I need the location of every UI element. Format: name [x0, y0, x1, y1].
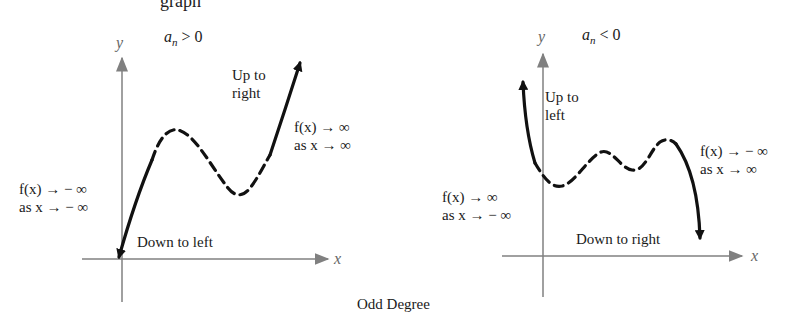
right-y-axis-label: y [538, 28, 545, 46]
left-right-limit-label: f(x) → ∞ as x → ∞ [294, 118, 351, 154]
left-curve [119, 63, 300, 257]
right-x-axis-label: x [751, 247, 758, 265]
right-left-limit-label: f(x) → ∞ as x → − ∞ [442, 188, 511, 224]
figure-caption: Odd Degree [357, 296, 430, 313]
right-top-arrow-label: Up to left [545, 88, 579, 124]
left-top-arrow-label: Up to right [232, 66, 266, 102]
left-x-axis-label: x [334, 250, 341, 268]
right-right-limit-label: f(x) → − ∞ as x → ∞ [700, 142, 768, 178]
left-left-limit-label: f(x) → − ∞ as x → − ∞ [19, 180, 88, 216]
right-bottom-arrow-label: Down to right [576, 230, 660, 248]
right-condition: an < 0 [582, 26, 621, 46]
left-condition: an > 0 [164, 28, 203, 48]
left-y-axis-label: y [116, 34, 123, 52]
left-bottom-arrow-label: Down to left [137, 233, 213, 251]
